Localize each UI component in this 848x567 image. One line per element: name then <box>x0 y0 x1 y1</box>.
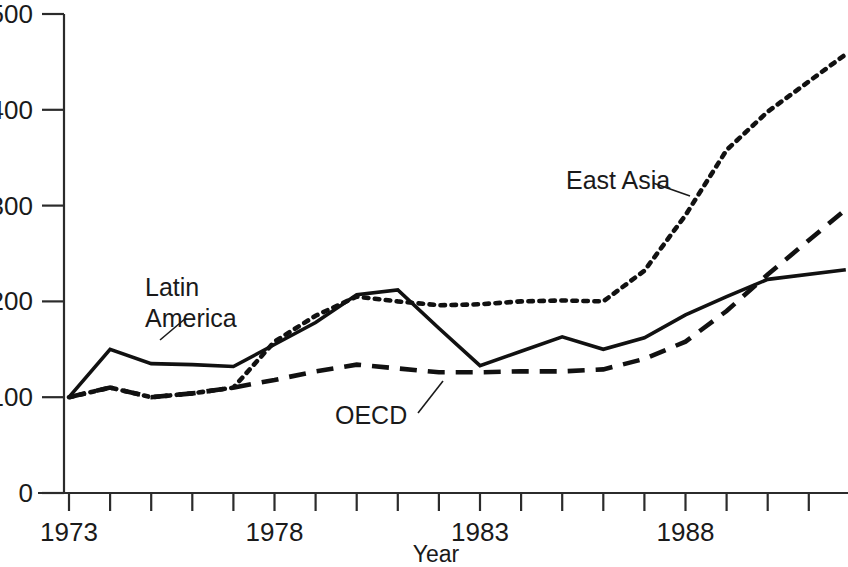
x-axis-title: Year <box>413 541 460 567</box>
y-tick-label: 0 <box>19 478 33 508</box>
y-tick-label: 500 <box>0 0 33 29</box>
leader-line-oecd <box>418 381 443 413</box>
chart-figure: 01002003004005001973197819831988 LatinAm… <box>0 0 848 567</box>
y-tick-label: 300 <box>0 191 33 221</box>
axes: 01002003004005001973197819831988 <box>0 0 848 547</box>
x-tick-label: 1978 <box>246 517 304 547</box>
series-label-east-asia: East Asia <box>566 166 670 194</box>
y-tick-label: 400 <box>0 95 33 125</box>
series-label-oecd: OECD <box>335 401 407 429</box>
x-tick-label: 1973 <box>40 517 98 547</box>
y-tick-label: 100 <box>0 382 33 412</box>
y-tick-label: 200 <box>0 286 33 316</box>
x-tick-label: 1983 <box>451 517 509 547</box>
series-lines <box>69 54 846 397</box>
line-chart: 01002003004005001973197819831988 LatinAm… <box>0 0 848 567</box>
series-label-latin-america: LatinAmerica <box>145 273 237 332</box>
x-tick-label: 1988 <box>657 517 715 547</box>
